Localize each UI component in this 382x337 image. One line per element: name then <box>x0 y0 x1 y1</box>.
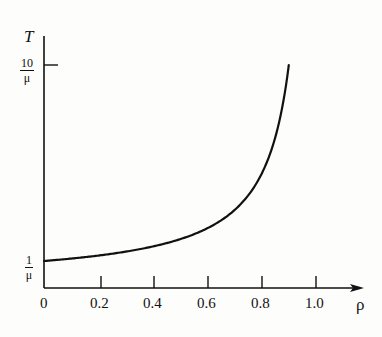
y-tick-label-low: 1 μ <box>25 254 33 281</box>
x-tick-label-0: 0 <box>40 296 48 311</box>
x-ticks <box>101 276 316 288</box>
y-tick-low-numerator: 1 <box>25 254 33 268</box>
y-tick-top-denominator: μ <box>20 71 34 84</box>
y-tick-low-denominator: μ <box>25 268 33 281</box>
y-axis-label: T <box>24 28 33 45</box>
x-axis-label: ρ <box>356 296 364 313</box>
y-tick-top-numerator: 10 <box>20 57 34 71</box>
x-tick-label-0.8: 0.8 <box>251 296 270 311</box>
x-tick-label-1.0: 1.0 <box>305 296 324 311</box>
x-tick-label-0.4: 0.4 <box>143 296 162 311</box>
y-tick-label-top: 10 μ <box>20 57 34 84</box>
x-tick-label-0.2: 0.2 <box>90 296 109 311</box>
x-tick-label-0.6: 0.6 <box>197 296 216 311</box>
chart-canvas <box>0 0 382 337</box>
data-series-curve <box>44 65 289 261</box>
